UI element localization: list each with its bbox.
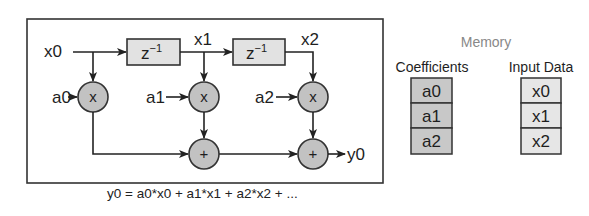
coef-cell-0-text: a0 (422, 82, 441, 101)
input-cell-0-text: x0 (532, 82, 550, 101)
delay-block-1: z−1 (127, 39, 180, 65)
coef-a1-label: a1 (146, 88, 165, 107)
multiplier-node-0: x (78, 82, 108, 112)
coefficients-header: Coefficients (396, 59, 469, 75)
multiply-icon: x (200, 88, 208, 105)
coef-a2-label: a2 (255, 88, 274, 107)
adder-node-2: + (298, 139, 328, 169)
input-data-memory: x0 x1 x2 (521, 78, 561, 154)
fir-diagram-canvas: x0 z−1 x1 z−1 x2 a0 a1 a2 x x x + (0, 0, 589, 216)
multiply-icon: x (89, 88, 97, 105)
signal-x2-label: x2 (301, 30, 319, 49)
plus-icon: + (200, 145, 209, 162)
delay-block-2: z−1 (233, 39, 285, 65)
multiplier-node-2: x (298, 82, 328, 112)
adder-node-1: + (189, 139, 219, 169)
filter-equation: y0 = a0*x0 + a1*x1 + a2*x2 + ... (107, 186, 298, 201)
input-cell-1-text: x1 (532, 107, 550, 126)
signal-x1-label: x1 (194, 30, 212, 49)
signal-y0-label: y0 (347, 145, 365, 164)
coefficients-memory: a0 a1 a2 (411, 78, 452, 154)
wire-mult0-to-add1 (93, 112, 188, 154)
coef-cell-1-text: a1 (422, 107, 441, 126)
signal-x0-label: x0 (44, 42, 62, 61)
plus-icon: + (309, 145, 318, 162)
coef-cell-2-text: a2 (422, 132, 441, 151)
input-cell-2-text: x2 (532, 132, 550, 151)
memory-title: Memory (461, 34, 512, 50)
input-data-header: Input Data (509, 59, 574, 75)
multiply-icon: x (309, 88, 317, 105)
wire-x2-to-mult2 (285, 52, 313, 81)
multiplier-node-1: x (189, 82, 219, 112)
